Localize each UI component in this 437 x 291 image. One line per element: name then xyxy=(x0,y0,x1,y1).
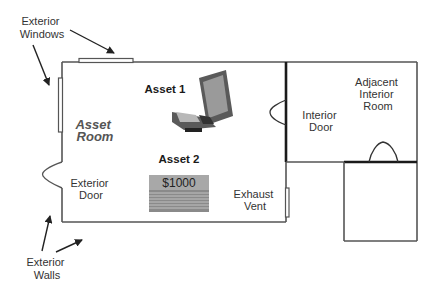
asset1-label: Asset 1 xyxy=(145,83,187,95)
left-window xyxy=(59,78,63,132)
interior-door-label: Interior Door xyxy=(302,109,339,133)
exterior-walls-label: Exterior Walls xyxy=(27,256,68,281)
adjacent-door xyxy=(369,142,398,162)
adjacent-room-walls xyxy=(286,62,417,241)
wall-arrow-bottom xyxy=(56,240,82,252)
money-amount: $1000 xyxy=(162,176,196,190)
exterior-door xyxy=(42,162,62,188)
laptop-icon xyxy=(172,70,233,132)
asset2-label: Asset 2 xyxy=(159,153,200,165)
asset-room-label: Asset Room xyxy=(74,117,114,144)
exterior-windows-label: Exterior Windows xyxy=(20,15,65,40)
top-window xyxy=(79,59,133,63)
window-arrow-top xyxy=(70,30,114,53)
wall-arrow-left xyxy=(42,216,50,251)
exhaust-vent xyxy=(286,188,290,217)
exterior-door-label: Exterior Door xyxy=(71,177,112,201)
money-stack-icon: $1000 xyxy=(149,175,209,212)
window-arrow-left xyxy=(33,45,49,85)
floor-plan-diagram: $1000 Exterior Windows Exterior Walls As… xyxy=(0,0,437,291)
exhaust-vent-label: Exhaust Vent xyxy=(234,188,277,212)
interior-door xyxy=(270,100,286,125)
lower-room-walls xyxy=(344,162,417,241)
adjacent-room-label: Adjacent Interior Room xyxy=(355,76,401,112)
